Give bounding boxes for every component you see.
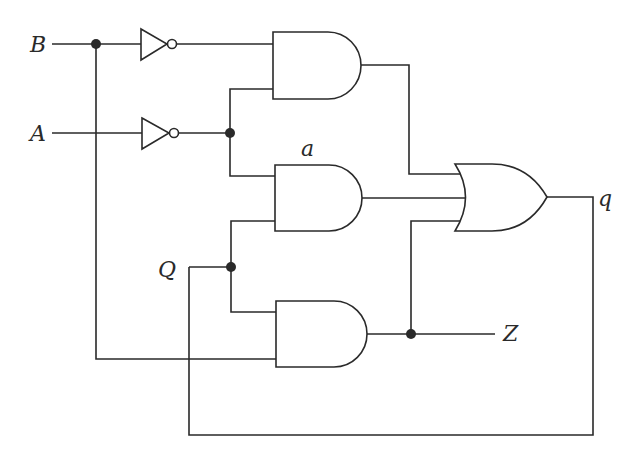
input-b-label: B: [29, 32, 46, 57]
output-z-label: Z: [502, 321, 519, 346]
junction-not-a: [225, 128, 235, 138]
node-a-label: a: [301, 136, 314, 161]
wire-and3-to-or: [411, 221, 460, 334]
junction-q: [226, 262, 236, 272]
wire-feedback-q: [189, 197, 593, 435]
and-gate-3: [276, 301, 367, 367]
not-gate-b: [141, 29, 177, 60]
state-q-label: Q: [158, 257, 176, 282]
output-q-label: q: [598, 186, 612, 211]
logic-circuit-diagram: B A Q a q Z: [0, 0, 640, 460]
or-gate: [455, 164, 547, 231]
wire-not-a-branch: [230, 89, 275, 176]
wire-q-branch: [231, 221, 276, 312]
junction-z: [406, 329, 416, 339]
and-gate-2: [275, 165, 362, 231]
junction-b: [91, 39, 101, 49]
wire-and1-out: [361, 65, 462, 174]
not-gate-a: [142, 118, 179, 149]
input-a-label: A: [28, 121, 46, 146]
and-gate-1: [273, 32, 361, 99]
